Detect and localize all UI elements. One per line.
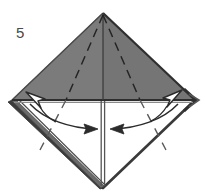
origami-step-diagram: 5 <box>0 0 206 196</box>
origami-diagram-container: 5 <box>0 0 206 196</box>
step-number-label: 5 <box>16 24 24 41</box>
